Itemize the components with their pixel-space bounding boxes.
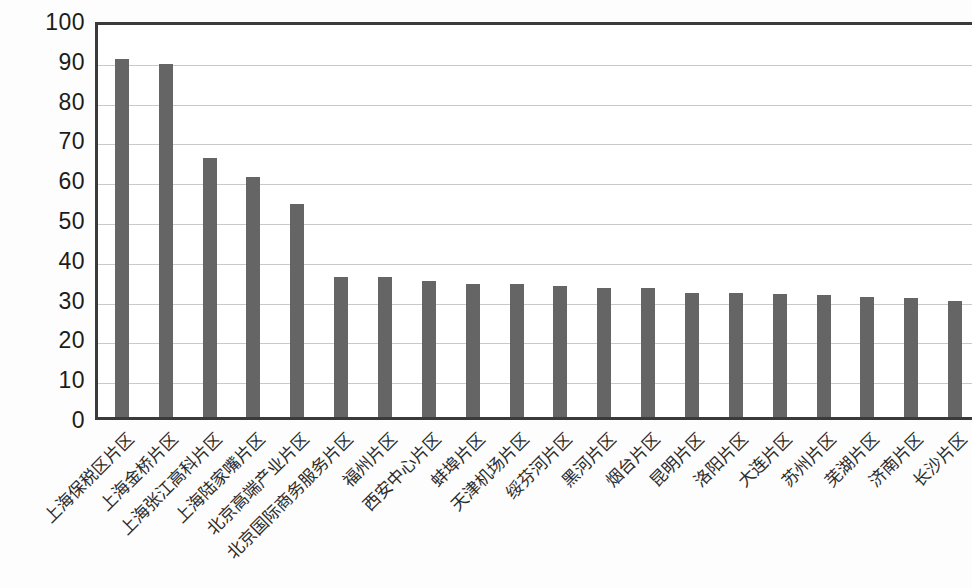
bar-chart: 0102030405060708090100 上海保税区片区上海金桥片区上海张江… — [0, 0, 972, 588]
bar — [773, 294, 787, 417]
bar — [422, 281, 436, 417]
bar — [115, 59, 129, 417]
plot-area — [95, 22, 972, 420]
y-tick-label: 10 — [58, 369, 85, 392]
bars — [98, 25, 972, 417]
bar — [817, 295, 831, 417]
y-tick-label: 100 — [45, 11, 85, 34]
bar — [246, 177, 260, 417]
x-axis-labels: 上海保税区片区上海金桥片区上海张江高科片区上海陆家嘴片区北京高端产业片区北京国际… — [95, 424, 972, 588]
y-axis: 0102030405060708090100 — [0, 0, 95, 440]
y-tick-label: 70 — [58, 130, 85, 153]
y-tick-label: 50 — [58, 210, 85, 233]
y-tick-label: 30 — [58, 289, 85, 312]
bar — [641, 288, 655, 417]
bar — [510, 284, 524, 417]
bar — [159, 64, 173, 417]
y-tick-label: 80 — [58, 90, 85, 113]
y-tick-label: 40 — [58, 249, 85, 272]
bar — [378, 277, 392, 417]
bar — [948, 301, 962, 417]
bar — [685, 293, 699, 417]
y-tick-label: 0 — [72, 409, 85, 432]
bar — [904, 298, 918, 417]
bar — [597, 288, 611, 417]
bar — [553, 286, 567, 417]
bar — [203, 158, 217, 417]
bar — [334, 277, 348, 417]
y-tick-label: 60 — [58, 170, 85, 193]
y-tick-label: 90 — [58, 50, 85, 73]
y-tick-label: 20 — [58, 329, 85, 352]
bar — [466, 284, 480, 417]
bar — [729, 293, 743, 417]
bar — [290, 204, 304, 417]
bar — [860, 297, 874, 417]
